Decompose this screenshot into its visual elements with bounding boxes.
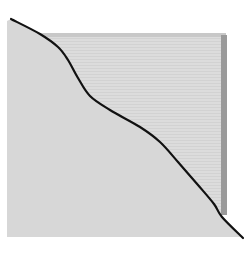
back-panel-side-shadow xyxy=(221,35,227,215)
diagram-canvas xyxy=(0,0,249,257)
curve-diagram xyxy=(0,0,249,257)
back-panel-top-edge xyxy=(40,33,226,37)
